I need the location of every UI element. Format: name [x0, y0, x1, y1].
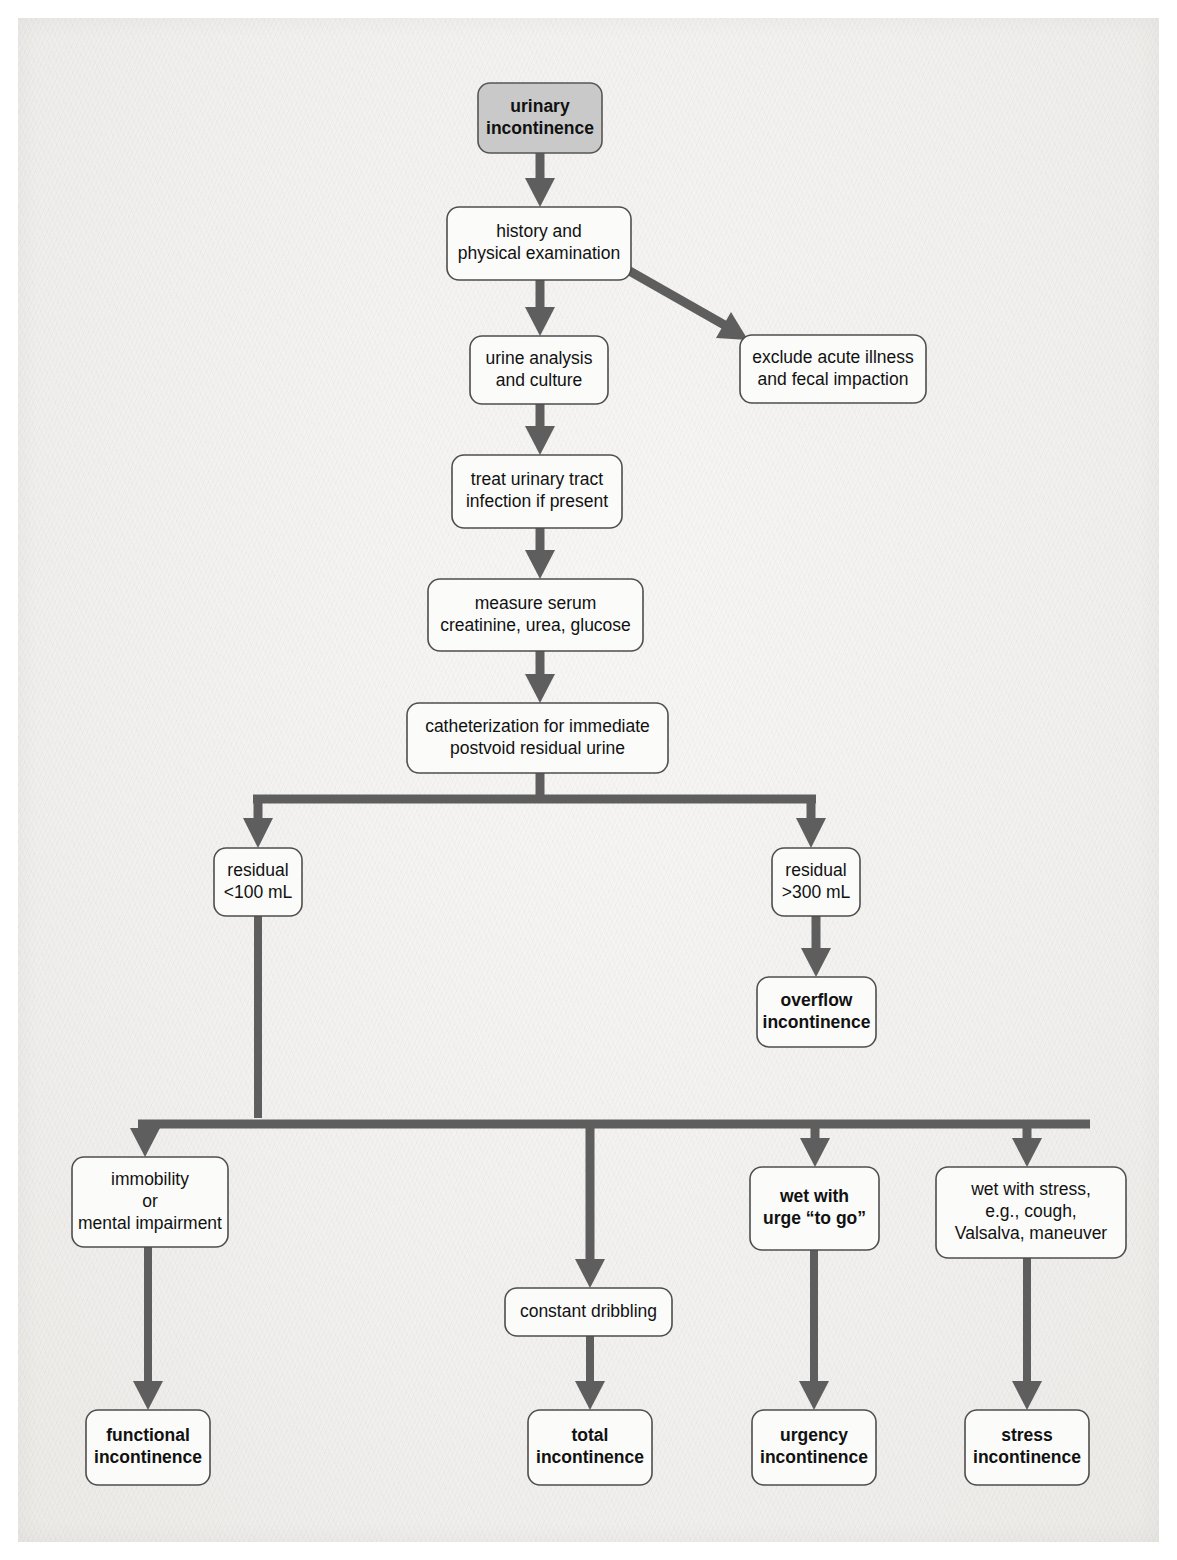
node-label-total-incontinence: total	[572, 1425, 609, 1445]
node-label-treat-uti: treat urinary tract	[471, 469, 603, 489]
nodes-layer: urinaryincontinencehistory andphysical e…	[72, 83, 1126, 1485]
node-measure-serum: measure serumcreatinine, urea, glucose	[428, 579, 643, 651]
node-overflow-incontinence: overflowincontinence	[757, 977, 876, 1047]
node-label-measure-serum: creatinine, urea, glucose	[440, 615, 631, 635]
node-label-residual-over-300: residual	[785, 860, 846, 880]
node-functional-incontinence: functionalincontinence	[86, 1410, 210, 1485]
node-label-stress-incontinence: stress	[1001, 1425, 1053, 1445]
node-urinary-incontinence: urinaryincontinence	[478, 83, 602, 153]
edge-stress-to-stress-incontinence	[1012, 1258, 1042, 1410]
node-history-and-physical: history andphysical examination	[447, 207, 631, 280]
node-label-exclude-acute-illness: and fecal impaction	[758, 369, 909, 389]
node-urgency-incontinence: urgencyincontinence	[752, 1410, 876, 1485]
edge-history-to-urine	[525, 280, 555, 336]
node-label-measure-serum: measure serum	[475, 593, 597, 613]
node-treat-uti: treat urinary tractinfection if present	[452, 455, 622, 528]
node-label-wet-with-stress: Valsalva, maneuver	[955, 1223, 1108, 1243]
node-label-urinary-incontinence: incontinence	[486, 118, 594, 138]
node-label-wet-with-stress: wet with stress,	[970, 1179, 1091, 1199]
edge-treat-to-measure	[525, 528, 555, 579]
node-label-history-and-physical: history and	[496, 221, 582, 241]
edge-catheterization-split	[243, 773, 826, 848]
flowchart-page: urinaryincontinencehistory andphysical e…	[0, 0, 1177, 1560]
node-label-total-incontinence: incontinence	[536, 1447, 644, 1467]
node-exclude-acute-illness: exclude acute illnessand fecal impaction	[740, 335, 926, 403]
node-wet-with-urge: wet withurge “to go”	[750, 1167, 879, 1250]
edge-history-to-exclude	[626, 269, 748, 340]
node-residual-over-300: residual>300 mL	[772, 848, 860, 916]
node-wet-with-stress: wet with stress,e.g., cough,Valsalva, ma…	[936, 1167, 1126, 1258]
node-constant-dribbling: constant dribbling	[505, 1288, 672, 1336]
node-label-functional-incontinence: incontinence	[94, 1447, 202, 1467]
node-label-urine-analysis: urine analysis	[486, 348, 593, 368]
node-label-immobility-or-mental-impairment: mental impairment	[78, 1213, 222, 1233]
node-label-immobility-or-mental-impairment: immobility	[111, 1169, 189, 1189]
edge-dribbling-to-total	[575, 1336, 605, 1410]
node-label-wet-with-stress: e.g., cough,	[985, 1201, 1076, 1221]
node-residual-under-100: residual<100 mL	[214, 848, 302, 916]
edge-urine-to-treat	[525, 404, 555, 455]
edge-immobility-to-functional	[133, 1247, 163, 1410]
node-label-wet-with-urge: wet with	[779, 1186, 849, 1206]
node-label-residual-over-300: >300 mL	[782, 882, 851, 902]
node-label-urgency-incontinence: incontinence	[760, 1447, 868, 1467]
edge-residual-over-300-to-overflow	[801, 916, 831, 977]
node-label-treat-uti: infection if present	[466, 491, 608, 511]
edge-urge-to-urgency	[799, 1250, 829, 1410]
node-immobility-or-mental-impairment: immobilityormental impairment	[72, 1157, 228, 1247]
node-label-overflow-incontinence: incontinence	[763, 1012, 871, 1032]
edge-ui-to-history	[525, 153, 555, 207]
node-label-overflow-incontinence: overflow	[781, 990, 853, 1010]
node-label-urgency-incontinence: urgency	[780, 1425, 848, 1445]
node-total-incontinence: totalincontinence	[528, 1410, 652, 1485]
node-catheterization: catheterization for immediatepostvoid re…	[407, 703, 668, 773]
edge-measure-to-catheterization	[525, 651, 555, 703]
node-label-stress-incontinence: incontinence	[973, 1447, 1081, 1467]
node-label-exclude-acute-illness: exclude acute illness	[752, 347, 914, 367]
node-label-urinary-incontinence: urinary	[510, 96, 570, 116]
node-urine-analysis: urine analysisand culture	[470, 336, 608, 404]
node-label-immobility-or-mental-impairment: or	[142, 1191, 158, 1211]
node-label-history-and-physical: physical examination	[458, 243, 620, 263]
node-label-functional-incontinence: functional	[106, 1425, 190, 1445]
node-stress-incontinence: stressincontinence	[965, 1410, 1089, 1485]
node-label-constant-dribbling: constant dribbling	[520, 1301, 657, 1321]
flowchart-canvas: urinaryincontinencehistory andphysical e…	[0, 0, 1177, 1560]
node-label-residual-under-100: <100 mL	[224, 882, 293, 902]
node-label-urine-analysis: and culture	[496, 370, 583, 390]
node-label-wet-with-urge: urge “to go”	[763, 1208, 866, 1228]
node-label-catheterization: postvoid residual urine	[450, 738, 625, 758]
node-label-catheterization: catheterization for immediate	[425, 716, 650, 736]
node-label-residual-under-100: residual	[227, 860, 288, 880]
